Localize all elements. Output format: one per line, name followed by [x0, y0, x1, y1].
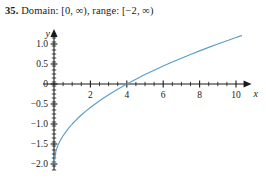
y-tick-label: −2.0 — [31, 159, 48, 169]
y-axis-group: 1.00.50−0.5−1.0−1.5−2.0 y — [31, 28, 58, 170]
y-axis-tick-labels: 1.00.50−0.5−1.0−1.5−2.0 — [31, 39, 48, 169]
chart-svg: 246810 x 1.00.50−0.5−1.0−1.5−2.0 y — [0, 18, 266, 183]
y-axis-label: y — [45, 28, 51, 39]
y-tick-label: −1.0 — [31, 119, 48, 129]
x-axis-group: 246810 x — [43, 80, 258, 100]
plot-area: 246810 x 1.00.50−0.5−1.0−1.5−2.0 y — [0, 18, 266, 183]
answer-number: 35. — [5, 5, 18, 16]
y-tick-label: 1.0 — [36, 39, 48, 49]
x-tick-label: 2 — [88, 90, 93, 100]
x-tick-label: 10 — [231, 90, 241, 100]
answer-text: Domain: [0, ∞), range: [−2, ∞) — [21, 5, 153, 16]
x-tick-label: 4 — [124, 90, 129, 100]
x-tick-label: 6 — [161, 90, 166, 100]
y-tick-label: −1.5 — [31, 139, 48, 149]
x-axis-tick-labels: 246810 — [88, 90, 241, 100]
y-tick-label: 0 — [43, 79, 48, 89]
y-tick-label: 0.5 — [36, 59, 48, 69]
y-axis-arrow — [50, 29, 57, 37]
y-tick-label: −0.5 — [31, 99, 48, 109]
x-tick-label: 8 — [197, 90, 202, 100]
data-curve — [54, 36, 241, 164]
x-axis-label: x — [253, 88, 259, 99]
answer-line: 35. Domain: [0, ∞), range: [−2, ∞) — [5, 4, 154, 17]
figure-root: 35. Domain: [0, ∞), range: [−2, ∞) 24681… — [0, 0, 266, 183]
